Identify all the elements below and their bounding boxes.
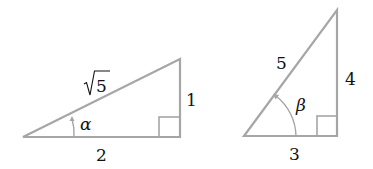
triangle-beta: 5 4 3 β [244, 10, 356, 164]
triangle-beta-shape [244, 10, 337, 136]
angle-label-alpha: α [80, 114, 92, 134]
hypotenuse-label-beta: 5 [276, 53, 287, 73]
angle-arc-beta [276, 96, 296, 136]
opposite-label-alpha: 1 [186, 90, 197, 110]
adjacent-label-alpha: 2 [96, 145, 107, 165]
arrow-head-icon [70, 116, 75, 121]
angle-arc-alpha [72, 119, 74, 137]
triangle-alpha: 5 1 2 α [23, 59, 197, 165]
angle-label-beta: β [295, 95, 306, 115]
right-angle-marker-beta [317, 116, 337, 136]
hypotenuse-label-alpha: 5 [96, 76, 107, 96]
adjacent-label-beta: 3 [289, 144, 300, 164]
opposite-label-beta: 4 [345, 69, 356, 89]
diagram-canvas: 5 1 2 α 5 4 3 β [0, 0, 373, 169]
right-angle-marker-alpha [159, 117, 180, 137]
